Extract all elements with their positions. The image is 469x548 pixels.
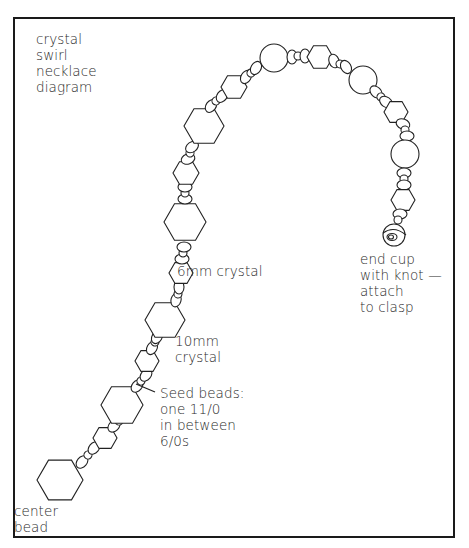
label-10mm-crystal: 10mm crystal	[175, 333, 221, 365]
label-end-cup: end cup with knot — attach to clasp	[360, 251, 442, 315]
crystal-10mm-bead-icon	[164, 204, 206, 240]
crystal-6mm-bead-icon	[173, 162, 199, 185]
label-center-bead: center bead	[14, 503, 58, 535]
crystal-6mm-bead-icon	[391, 190, 415, 211]
seed-bead-6-0-icon	[177, 242, 191, 252]
seed-bead-11-0-icon	[394, 216, 402, 224]
round-bead-icon	[391, 140, 419, 168]
label-6mm-crystal: 6mm crystal	[177, 263, 263, 279]
seed-bead-6-0-icon	[397, 180, 411, 190]
crystal-6mm-bead-icon	[135, 351, 159, 372]
seed-bead-6-0-icon	[400, 131, 414, 141]
end-cup-icon	[383, 224, 406, 246]
round-bead-icon	[260, 44, 288, 72]
label-seed-beads: Seed beads: one 11/0 in between 6/0s	[160, 385, 244, 449]
diagram-title: crystal swirl necklace diagram	[36, 31, 97, 95]
crystal-10mm-bead-icon	[184, 109, 224, 144]
